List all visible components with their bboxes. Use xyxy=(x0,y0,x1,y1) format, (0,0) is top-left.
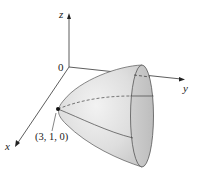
y-axis-arrow-icon xyxy=(179,77,185,82)
origin-label: 0 xyxy=(58,62,64,73)
vertex-point xyxy=(52,107,60,131)
paraboloid-surface xyxy=(58,65,154,167)
y-axis-label: y xyxy=(183,83,188,94)
z-axis-label: z xyxy=(59,9,63,20)
point-label: (3, 1, 0) xyxy=(35,132,68,143)
paraboloid-rim xyxy=(131,65,154,167)
z-axis-arrow-icon xyxy=(67,13,71,19)
z-axis xyxy=(67,13,71,67)
x-axis-label: x xyxy=(5,141,10,152)
paraboloid-diagram xyxy=(0,0,204,178)
